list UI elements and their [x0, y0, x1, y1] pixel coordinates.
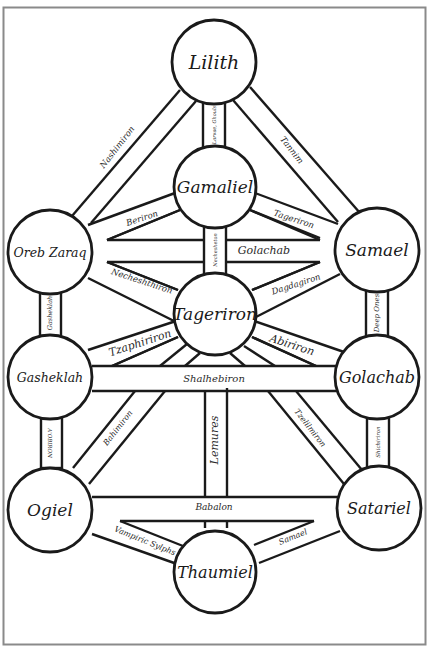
node-label: Gasheklah	[17, 370, 83, 385]
path-dagdagiron	[252, 262, 340, 318]
node-ogiel: Ogiel	[8, 468, 92, 552]
node-golachab: Golachab	[335, 335, 419, 419]
path-label-shalhebiron: Shalhebiron	[183, 373, 245, 384]
path-label-deep-ones: Deep Ones	[373, 293, 381, 333]
path-label-necheshthiron: Necheshthiron	[109, 266, 174, 296]
path-label-a-ob-ron: A'OBIRON	[47, 427, 53, 458]
path-label-gasheklah-path: Gasheklah	[46, 296, 54, 331]
path-label-dagdagiron: Dagdagiron	[269, 271, 321, 296]
path-label-lemures: Lemures	[208, 415, 221, 465]
node-lilith: Lilith	[172, 20, 256, 104]
node-label: Oreb Zaraq	[13, 245, 86, 260]
node-label: Gamaliel	[177, 177, 253, 197]
node-samael: Samael	[335, 208, 419, 292]
node-gasheklah: Gasheklah	[8, 335, 92, 419]
path-label-shichiriron: Shichiriron	[375, 426, 381, 458]
node-tageriron: Tageriron	[173, 273, 257, 355]
node-label: Samael	[345, 240, 409, 260]
node-label: Golachab	[339, 368, 415, 387]
path-label-larvae-ghouls: Larvae, Ghouls	[211, 105, 217, 145]
node-label: Tageriron	[173, 304, 257, 324]
node-label: Satariel	[347, 499, 411, 518]
path-label-nechesheton: Nechesheton	[212, 233, 218, 267]
node-label: Ogiel	[27, 500, 73, 520]
node-thaumiel: Thaumiel	[174, 531, 256, 613]
node-gamaliel: Gamaliel	[174, 146, 256, 228]
path-label-tannim: Tannim	[278, 134, 305, 165]
node-oreb-zaraq: Oreb Zaraq	[8, 210, 92, 294]
node-label: Thaumiel	[177, 563, 253, 582]
node-satariel: Satariel	[337, 466, 421, 550]
path-label-golachab-path: Golachab	[238, 244, 290, 257]
path-bahimiron	[73, 391, 165, 484]
diagram-canvas: LilithGamalielOreb ZaraqSamaelTagerironG…	[0, 0, 429, 651]
node-label: Lilith	[188, 51, 240, 73]
path-label-babalon: Babalon	[194, 502, 232, 512]
